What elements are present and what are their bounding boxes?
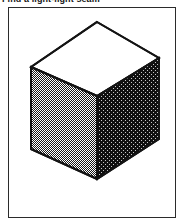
cube-drawing	[9, 8, 175, 217]
figure-frame	[8, 7, 176, 218]
figure-caption: Find a light-light seam	[2, 0, 100, 5]
caption-clip-region: Find a light-light seam	[0, 0, 188, 5]
